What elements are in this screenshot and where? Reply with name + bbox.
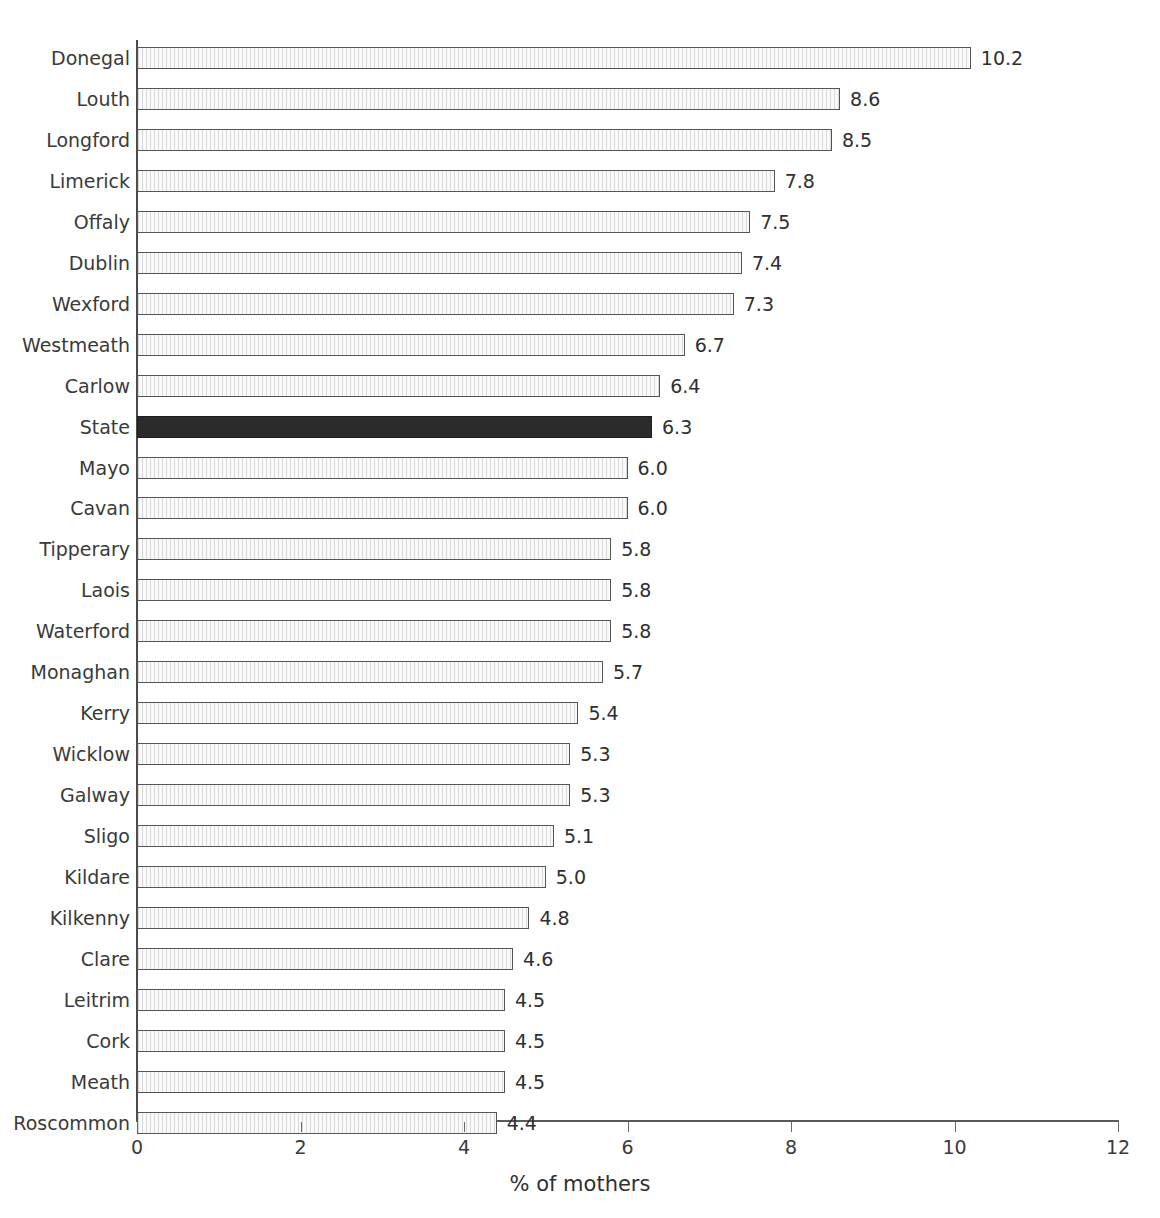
value-label: 5.3 [580, 745, 610, 764]
bar-row: Dublin7.4 [0, 252, 1160, 274]
bar [137, 88, 840, 110]
category-label: Monaghan [31, 663, 131, 682]
bar-row: Sligo5.1 [0, 825, 1160, 847]
bar-row: Kildare5.0 [0, 866, 1160, 888]
value-label: 4.8 [539, 908, 569, 927]
category-label: Galway [60, 786, 130, 805]
bar-row: Donegal10.2 [0, 47, 1160, 69]
bar [137, 538, 611, 560]
bar-row: Louth8.6 [0, 88, 1160, 110]
category-label: Mayo [79, 458, 130, 477]
bar-row: Waterford5.8 [0, 620, 1160, 642]
bar [137, 293, 734, 315]
bar-row: Limerick7.8 [0, 170, 1160, 192]
x-axis-tick [137, 1122, 138, 1132]
bar [137, 457, 628, 479]
x-axis-tick-label: 8 [785, 1136, 797, 1158]
bar [137, 497, 628, 519]
x-axis-tick-label: 10 [942, 1136, 966, 1158]
x-axis-tick-label: 2 [294, 1136, 306, 1158]
bar [137, 375, 660, 397]
bar [137, 1030, 505, 1052]
value-label: 6.3 [662, 417, 692, 436]
value-label: 4.5 [515, 1072, 545, 1091]
x-axis-tick-label: 12 [1106, 1136, 1130, 1158]
bar [137, 661, 603, 683]
category-label: Westmeath [22, 335, 130, 354]
bar-row: Kilkenny4.8 [0, 907, 1160, 929]
bar [137, 579, 611, 601]
bar [137, 866, 546, 888]
bar-row: Westmeath6.7 [0, 334, 1160, 356]
value-label: 7.4 [752, 253, 782, 272]
bar [137, 743, 570, 765]
x-axis-title: % of mothers [0, 1172, 1160, 1196]
value-label: 5.1 [564, 827, 594, 846]
bar-row: Carlow6.4 [0, 375, 1160, 397]
category-label: Limerick [49, 171, 130, 190]
value-label: 6.7 [695, 335, 725, 354]
category-label: Leitrim [64, 990, 130, 1009]
category-label: Laois [81, 581, 130, 600]
x-axis-tick [791, 1122, 792, 1132]
bar-row: Galway5.3 [0, 784, 1160, 806]
value-label: 8.5 [842, 130, 872, 149]
bar [137, 47, 971, 69]
bar-row: Roscommon4.4 [0, 1112, 1160, 1134]
bar-row: Longford8.5 [0, 129, 1160, 151]
value-label: 6.4 [670, 376, 700, 395]
category-label: Louth [77, 89, 130, 108]
x-axis-tick-label: 4 [458, 1136, 470, 1158]
bar-row: Leitrim4.5 [0, 989, 1160, 1011]
category-label: Longford [46, 130, 130, 149]
category-label: Carlow [65, 376, 130, 395]
category-label: Cavan [70, 499, 130, 518]
bar-row: Meath4.5 [0, 1071, 1160, 1093]
value-label: 5.8 [621, 622, 651, 641]
plot-area: Donegal10.2Louth8.6Longford8.5Limerick7.… [0, 0, 1160, 1218]
bar [137, 989, 505, 1011]
bar [137, 948, 513, 970]
bar [137, 702, 578, 724]
value-label: 5.3 [580, 786, 610, 805]
category-label: Sligo [84, 827, 130, 846]
category-label: Clare [81, 949, 130, 968]
category-label: Tipperary [39, 540, 130, 559]
value-label: 6.0 [638, 458, 668, 477]
x-axis-tick [1118, 1122, 1119, 1132]
category-label: Wexford [52, 294, 130, 313]
value-label: 10.2 [981, 49, 1023, 68]
bar-row: Tipperary5.8 [0, 538, 1160, 560]
value-label: 4.4 [507, 1113, 537, 1132]
value-label: 5.7 [613, 663, 643, 682]
bar [137, 1071, 505, 1093]
value-label: 7.8 [785, 171, 815, 190]
bar [137, 170, 775, 192]
x-axis-tick [628, 1122, 629, 1132]
category-label: State [80, 417, 130, 436]
value-label: 4.5 [515, 1031, 545, 1050]
x-axis-tick [301, 1122, 302, 1132]
bar [137, 129, 832, 151]
value-label: 5.8 [621, 540, 651, 559]
bar-row: Cork4.5 [0, 1030, 1160, 1052]
bar [137, 252, 742, 274]
category-label: Dublin [69, 253, 130, 272]
category-label: Wicklow [52, 745, 130, 764]
value-label: 7.3 [744, 294, 774, 313]
bar-row: Monaghan5.7 [0, 661, 1160, 683]
category-label: Roscommon [13, 1113, 130, 1132]
category-label: Kilkenny [50, 908, 130, 927]
value-label: 5.8 [621, 581, 651, 600]
bar [137, 784, 570, 806]
x-axis-tick-label: 0 [131, 1136, 143, 1158]
bar-row: Wicklow5.3 [0, 743, 1160, 765]
category-label: Kildare [64, 868, 130, 887]
bar [137, 334, 685, 356]
value-label: 5.0 [556, 868, 586, 887]
bar-row: Cavan6.0 [0, 497, 1160, 519]
category-label: Offaly [74, 212, 130, 231]
x-axis-tick [464, 1122, 465, 1132]
bar-row: Laois5.8 [0, 579, 1160, 601]
bar [137, 825, 554, 847]
